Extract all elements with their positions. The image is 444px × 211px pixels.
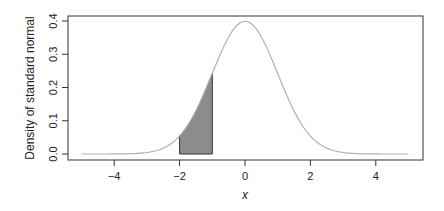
x-tick-label: 4 xyxy=(373,170,379,182)
plot-box xyxy=(68,16,423,160)
y-tick-label: 0.2 xyxy=(47,80,59,95)
y-tick-label: 0.0 xyxy=(47,146,59,161)
x-axis-label: x xyxy=(241,188,249,202)
x-tick-label: −2 xyxy=(173,170,186,182)
y-tick-label: 0.4 xyxy=(47,13,59,28)
x-tick-label: −4 xyxy=(108,170,121,182)
y-axis: 0.00.10.20.30.4 xyxy=(47,13,68,161)
x-axis: −4−2024 xyxy=(108,160,379,182)
y-tick-label: 0.1 xyxy=(47,113,59,128)
density-curve xyxy=(82,21,409,154)
y-tick-label: 0.3 xyxy=(47,47,59,62)
x-tick-label: 0 xyxy=(242,170,248,182)
chart: −4−2024 0.00.10.20.30.4 x Density of sta… xyxy=(0,0,444,211)
y-axis-label: Density of standard normal xyxy=(23,16,37,159)
x-tick-label: 2 xyxy=(307,170,313,182)
density-line xyxy=(82,21,409,154)
